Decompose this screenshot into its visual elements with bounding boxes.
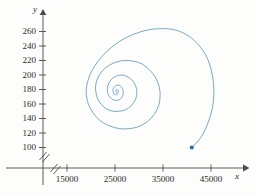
y-tick-label: 200 [6, 71, 36, 80]
y-tick-label: 140 [6, 114, 36, 123]
y-tick-label: 240 [6, 42, 36, 51]
phase-plane-figure [0, 0, 256, 195]
x-tick-label: 25000 [100, 175, 130, 184]
y-tick-label: 180 [6, 85, 36, 94]
y-axis-break-mark [40, 152, 50, 162]
y-axis-label: y [33, 5, 37, 14]
x-tick-label: 15000 [52, 175, 82, 184]
y-tick-label: 100 [6, 143, 36, 152]
x-axis-arrow [243, 165, 250, 172]
x-tick-label: 45000 [196, 175, 226, 184]
y-axis-ticks [39, 32, 46, 148]
y-tick-label: 220 [6, 56, 36, 65]
y-tick-label: 260 [6, 27, 36, 36]
x-axis-break-mark [51, 164, 61, 174]
y-tick-label: 160 [6, 100, 36, 109]
x-axis-label: x [235, 172, 239, 181]
x-tick-label: 35000 [148, 175, 178, 184]
y-tick-label: 120 [6, 129, 36, 138]
phase-trajectory-curve [86, 29, 214, 148]
start-point-marker [190, 145, 194, 149]
y-axis-arrow [40, 9, 47, 15]
